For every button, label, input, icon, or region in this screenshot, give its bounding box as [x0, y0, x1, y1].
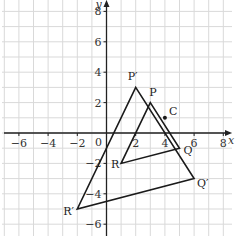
x-tick-label: −2: [69, 137, 85, 150]
x-tick-label: 4: [161, 137, 168, 150]
vertex-label-r-prime: R′: [63, 205, 74, 218]
y-tick-label: 6: [95, 36, 102, 49]
x-axis-label: x: [228, 134, 235, 147]
coordinate-diagram: xy−6−4−2024688642−2−4−6 PQRP′Q′R′C: [0, 0, 236, 244]
y-tick-label: 2: [95, 97, 102, 110]
y-tick-label: −4: [85, 188, 101, 201]
origin-label: 0: [95, 136, 102, 149]
y-tick-label: −6: [85, 218, 101, 231]
y-axis-arrow-icon: [104, 0, 110, 7]
x-tick-label: −4: [40, 137, 56, 150]
vertex-label-q-prime: Q′: [197, 177, 209, 190]
vertex-label-r: R: [111, 158, 120, 171]
vertex-label-p: P: [149, 86, 157, 99]
vertex-label-q: Q: [184, 144, 193, 157]
y-tick-label: 8: [95, 5, 102, 18]
grid-lines: [2, 0, 232, 236]
y-tick-label: 4: [95, 66, 102, 79]
center-label: C: [169, 105, 177, 118]
vertex-label-p-prime: P′: [128, 70, 138, 83]
x-tick-label: −6: [11, 137, 27, 150]
center-point: [163, 116, 167, 120]
x-tick-label: 8: [220, 137, 227, 150]
